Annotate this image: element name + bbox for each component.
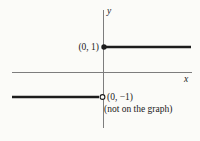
figure-background	[0, 0, 200, 141]
upper-point-label: (0, 1)	[78, 42, 99, 53]
y-axis-label: y	[106, 6, 112, 16]
closed-endpoint-dot	[101, 44, 106, 49]
not-on-graph-note: (not on the graph)	[104, 104, 172, 115]
lower-point-label: (0, −1)	[107, 92, 133, 103]
graph-canvas: y x (0, 1) (0, −1) (not on the graph)	[0, 0, 200, 141]
x-axis-label: x	[183, 74, 189, 84]
step-function-graph: y x (0, 1) (0, −1) (not on the graph)	[0, 0, 200, 141]
open-endpoint-circle	[100, 95, 105, 100]
